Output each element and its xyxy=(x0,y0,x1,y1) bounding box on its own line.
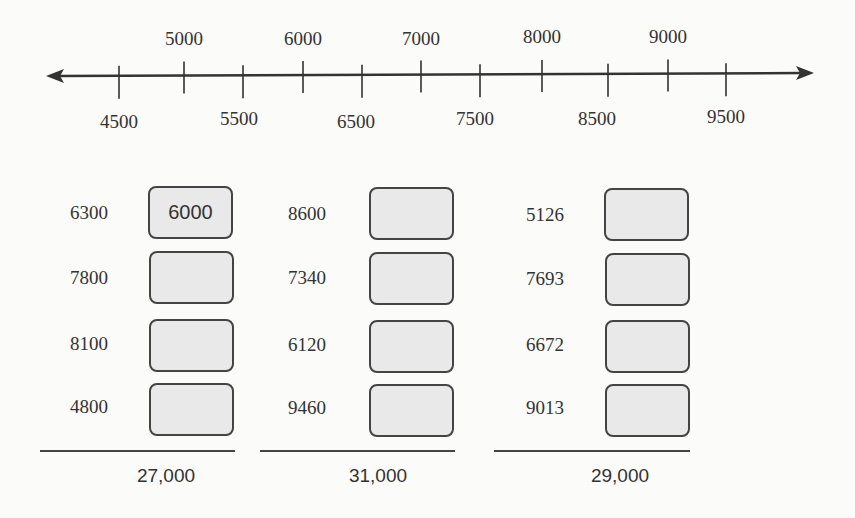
answer-box[interactable] xyxy=(149,383,234,436)
answer-box[interactable] xyxy=(369,252,454,305)
answer-box[interactable] xyxy=(149,251,234,304)
tick-label: 6500 xyxy=(337,111,375,133)
answer-box[interactable] xyxy=(604,188,689,241)
answer-box[interactable] xyxy=(149,319,234,372)
total-label: 29,000 xyxy=(591,465,649,487)
tick-label: 8500 xyxy=(578,108,616,130)
tick-label: 5000 xyxy=(165,28,203,50)
answer-box[interactable] xyxy=(605,253,690,306)
answer-box[interactable] xyxy=(605,320,690,373)
total-label: 31,000 xyxy=(349,465,407,487)
tick-label: 6000 xyxy=(284,28,322,50)
answer-box[interactable]: 6000 xyxy=(148,186,233,239)
tick-label: 8000 xyxy=(523,26,561,48)
number-label: 6120 xyxy=(288,334,326,356)
number-label: 7693 xyxy=(526,268,564,290)
tick-label: 9000 xyxy=(649,26,687,48)
tick-label: 7000 xyxy=(402,28,440,50)
number-label: 8600 xyxy=(288,203,326,225)
tick-label: 7500 xyxy=(456,108,494,130)
number-label: 5126 xyxy=(526,204,564,226)
answer-box[interactable] xyxy=(605,384,690,437)
number-label: 4800 xyxy=(70,396,108,418)
number-label: 9013 xyxy=(526,397,564,419)
tick-label: 5500 xyxy=(220,108,258,130)
total-line xyxy=(260,450,455,452)
number-label: 7340 xyxy=(288,267,326,289)
answer-box[interactable] xyxy=(369,384,454,437)
number-label: 9460 xyxy=(288,397,326,419)
number-label: 6672 xyxy=(526,334,564,356)
tick-label: 4500 xyxy=(100,111,138,133)
number-label: 7800 xyxy=(70,267,108,289)
number-line xyxy=(0,0,855,110)
answer-box[interactable] xyxy=(369,187,454,240)
answer-box[interactable] xyxy=(369,320,454,373)
number-label: 6300 xyxy=(70,202,108,224)
number-line-axis xyxy=(56,73,804,76)
tick-marks xyxy=(119,60,726,99)
number-label: 8100 xyxy=(70,333,108,355)
total-label: 27,000 xyxy=(137,465,195,487)
total-line xyxy=(494,450,690,452)
tick-label: 9500 xyxy=(707,106,745,128)
total-line xyxy=(40,450,235,452)
